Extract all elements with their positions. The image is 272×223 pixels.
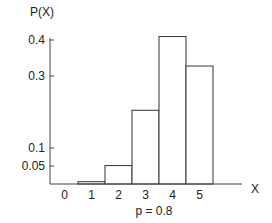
y-axis-label: P(X)	[30, 5, 54, 19]
y-tick-label: 0.1	[28, 141, 45, 155]
bar-4	[159, 37, 186, 184]
y-tick-label: 0.05	[22, 159, 46, 173]
y-tick-label: 0.3	[28, 69, 45, 83]
bar-3	[132, 110, 159, 184]
x-tick-label: 3	[142, 188, 149, 202]
caption-p-value: p = 0.8	[135, 204, 172, 218]
bar-5	[186, 66, 213, 184]
y-tick-label: 0.4	[28, 33, 45, 47]
x-tick-label: 4	[169, 188, 176, 202]
x-tick-label: 2	[115, 188, 122, 202]
bar-2	[105, 166, 132, 184]
x-tick-label: 1	[88, 188, 95, 202]
x-axis-label: X	[251, 182, 259, 196]
x-tick-label: 0	[61, 188, 68, 202]
binomial-bar-chart: 0.050.10.30.4012345P(X)Xp = 0.8	[0, 0, 272, 223]
x-tick-label: 5	[196, 188, 203, 202]
